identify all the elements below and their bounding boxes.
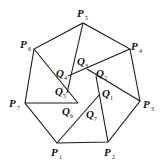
svg-text:Q: Q bbox=[102, 87, 110, 99]
svg-text:P: P bbox=[9, 97, 16, 109]
svg-text:Q: Q bbox=[62, 105, 70, 117]
label-p3: P3 bbox=[143, 98, 154, 112]
svg-text:P: P bbox=[131, 40, 138, 52]
label-p6: P6 bbox=[20, 38, 31, 52]
outer-heptagon bbox=[25, 23, 140, 143]
svg-text:7: 7 bbox=[94, 116, 97, 122]
svg-text:3: 3 bbox=[85, 63, 88, 69]
svg-text:2: 2 bbox=[104, 75, 107, 81]
svg-text:5: 5 bbox=[85, 15, 88, 21]
label-q2: Q2 bbox=[96, 67, 107, 81]
label-p7: P7 bbox=[9, 97, 20, 111]
svg-text:1: 1 bbox=[59, 154, 62, 160]
label-q7: Q7 bbox=[86, 108, 97, 122]
segment-p2-q2 bbox=[96, 76, 108, 142]
svg-text:P: P bbox=[77, 7, 84, 19]
label-p1: P1 bbox=[51, 146, 62, 160]
label-q6: Q6 bbox=[62, 105, 73, 119]
svg-text:Q: Q bbox=[55, 85, 63, 97]
label-q3: Q3 bbox=[77, 55, 88, 69]
label-p2: P2 bbox=[104, 146, 115, 160]
svg-text:Q: Q bbox=[77, 55, 85, 67]
svg-text:Q: Q bbox=[96, 67, 104, 79]
svg-text:6: 6 bbox=[70, 113, 73, 119]
label-q4: Q4 bbox=[56, 67, 67, 81]
heptagon-diagram: P5 P4 P6 P3 P7 P1 P2 Q3 Q4 Q2 Q1 Q5 Q6 Q… bbox=[0, 0, 162, 166]
svg-text:P: P bbox=[20, 38, 27, 50]
svg-text:3: 3 bbox=[151, 106, 154, 112]
svg-text:7: 7 bbox=[17, 105, 20, 111]
svg-text:P: P bbox=[143, 98, 150, 110]
label-p4: P4 bbox=[131, 40, 142, 54]
svg-text:4: 4 bbox=[139, 48, 142, 54]
svg-text:2: 2 bbox=[112, 154, 115, 160]
label-p5: P5 bbox=[77, 7, 88, 21]
label-q1: Q1 bbox=[102, 87, 113, 101]
svg-text:P: P bbox=[51, 146, 58, 158]
svg-text:Q: Q bbox=[86, 108, 94, 120]
svg-text:4: 4 bbox=[64, 75, 67, 81]
svg-text:5: 5 bbox=[63, 93, 66, 99]
segment-p3-q3 bbox=[87, 69, 140, 101]
svg-text:P: P bbox=[104, 146, 111, 158]
svg-text:6: 6 bbox=[28, 46, 31, 52]
svg-text:Q: Q bbox=[56, 67, 64, 79]
svg-text:1: 1 bbox=[110, 95, 113, 101]
